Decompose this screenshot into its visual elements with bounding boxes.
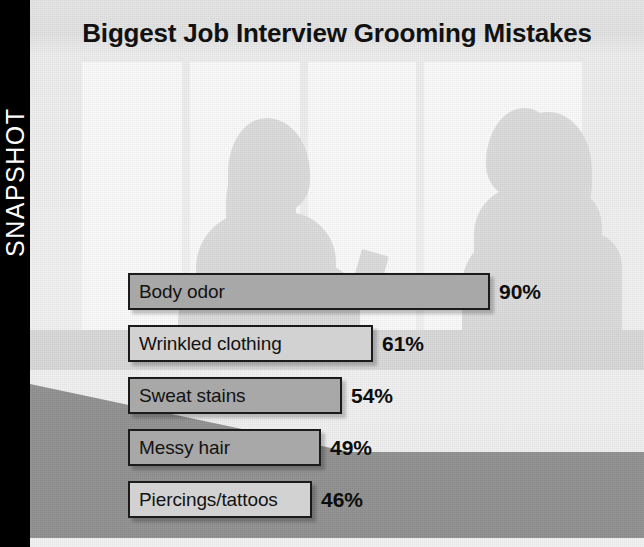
bar-row: Piercings/tattoos46% xyxy=(128,481,402,518)
bar-label: Messy hair xyxy=(130,437,230,459)
bar-label: Body odor xyxy=(130,281,225,303)
bar-value: 54% xyxy=(351,377,393,414)
bar-value: 49% xyxy=(330,429,372,466)
bar-5: Piercings/tattoos xyxy=(128,481,312,518)
bar-row: Wrinkled clothing61% xyxy=(128,325,463,362)
bar-row: Messy hair49% xyxy=(128,429,411,466)
bar-3: Sweat stains xyxy=(128,377,342,414)
snapshot-infographic: SNAPSHOT Biggest Job Interview Grooming … xyxy=(0,0,644,547)
bar-1: Body odor xyxy=(128,273,490,310)
bar-label: Wrinkled clothing xyxy=(130,333,282,355)
bar-4: Messy hair xyxy=(128,429,321,466)
bar-2: Wrinkled clothing xyxy=(128,325,373,362)
bar-label: Sweat stains xyxy=(130,385,246,407)
bar-value: 61% xyxy=(382,325,424,362)
bar-value: 46% xyxy=(321,481,363,518)
bar-value: 90% xyxy=(499,273,541,310)
bar-label: Piercings/tattoos xyxy=(130,489,278,511)
bar-row: Body odor90% xyxy=(128,273,580,310)
bar-chart: Body odor90%Wrinkled clothing61%Sweat st… xyxy=(0,0,644,547)
bar-row: Sweat stains54% xyxy=(128,377,432,414)
